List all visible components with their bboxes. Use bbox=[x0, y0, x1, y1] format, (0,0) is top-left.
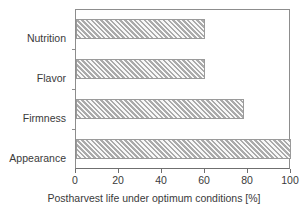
y-axis-tick-3 bbox=[72, 129, 76, 130]
x-axis-tick-label-80: 80 bbox=[241, 175, 253, 186]
bar-appearance[interactable] bbox=[76, 139, 291, 159]
x-axis-tick-0 bbox=[75, 169, 76, 173]
x-axis-tick-40 bbox=[161, 169, 162, 173]
y-axis-category-labels: Nutrition Flavor Firmness Appearance bbox=[0, 9, 71, 169]
category-label-nutrition: Nutrition bbox=[0, 33, 71, 43]
category-label-flavor: Flavor bbox=[0, 73, 71, 83]
bar-row-flavor bbox=[76, 59, 205, 79]
category-label-appearance: Appearance bbox=[0, 153, 71, 163]
bar-flavor[interactable] bbox=[76, 59, 205, 79]
x-axis-tick-80 bbox=[247, 169, 248, 173]
bar-row-firmness bbox=[76, 99, 244, 119]
y-axis-tick-2 bbox=[72, 89, 76, 90]
bar-firmness[interactable] bbox=[76, 99, 244, 119]
x-axis-tick-label-60: 60 bbox=[198, 175, 210, 186]
bar-nutrition[interactable] bbox=[76, 19, 205, 39]
x-axis-tick-label-40: 40 bbox=[155, 175, 167, 186]
x-axis-tick-label-20: 20 bbox=[112, 175, 124, 186]
plot-area bbox=[75, 9, 290, 169]
x-axis-tick-60 bbox=[204, 169, 205, 173]
bar-row-nutrition bbox=[76, 19, 205, 39]
x-axis-tick-label-100: 100 bbox=[281, 175, 299, 186]
bar-row-appearance bbox=[76, 139, 291, 159]
x-axis-tick-label-0: 0 bbox=[72, 175, 78, 186]
x-axis-title: Postharvest life under optimum condition… bbox=[0, 192, 308, 204]
y-axis-tick-1 bbox=[72, 49, 76, 50]
category-label-firmness: Firmness bbox=[0, 113, 71, 123]
bar-chart-figure: Nutrition Flavor Firmness Appearance 020… bbox=[0, 0, 308, 216]
x-axis-tick-100 bbox=[290, 169, 291, 173]
x-axis-tick-20 bbox=[118, 169, 119, 173]
